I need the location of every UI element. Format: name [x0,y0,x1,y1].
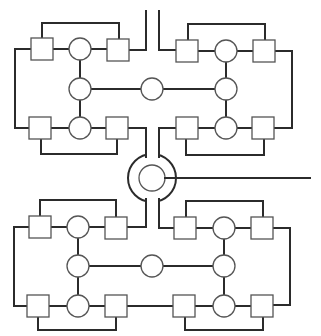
circle-node[interactable] [215,78,237,100]
hub-bottom-gap [147,196,158,204]
circle-node[interactable] [213,295,235,317]
bl-hub-link [127,199,146,227]
top-middle-circle-node[interactable] [141,78,163,100]
square-node[interactable] [251,217,273,239]
tl-left-bus [15,49,31,128]
tr-top-loop [188,24,265,40]
square-node[interactable] [106,117,128,139]
bl-top-loop [40,200,116,217]
tr-right-bus [274,51,292,128]
square-node[interactable] [31,38,53,60]
square-node[interactable] [252,117,274,139]
square-node[interactable] [29,117,51,139]
circle-node[interactable] [67,216,89,238]
square-node[interactable] [105,217,127,239]
circle-node[interactable] [67,255,89,277]
tl-to-hub [128,128,146,157]
square-node[interactable] [29,216,51,238]
central-hub[interactable] [128,152,176,204]
tl-top-loop [42,23,119,39]
bottom-middle-circle-node[interactable] [141,255,163,277]
tl-bottom-loop [41,139,117,154]
tr-bottom-loop [186,139,264,155]
br-hub-link [159,199,174,228]
network-diagram [0,0,321,336]
square-node[interactable] [27,295,49,317]
circle-node[interactable] [69,78,91,100]
br-right-bus [273,228,290,305]
circle-node[interactable] [215,117,237,139]
square-node[interactable] [107,39,129,61]
circle-node[interactable] [215,40,237,62]
square-node[interactable] [251,295,273,317]
square-node[interactable] [176,117,198,139]
square-node[interactable] [174,217,196,239]
circle-node[interactable] [67,295,89,317]
br-bottom-loop [185,317,263,330]
circle-node[interactable] [213,255,235,277]
bl-bottom-loop [38,317,116,330]
square-node[interactable] [253,40,275,62]
br-top-loop [186,201,263,217]
circle-node[interactable] [69,117,91,139]
bl-left-bus [14,227,29,306]
square-node[interactable] [176,40,198,62]
circle-node[interactable] [213,217,235,239]
square-node[interactable] [105,295,127,317]
square-node[interactable] [173,295,195,317]
hub-inner-circle[interactable] [139,165,165,191]
top-channel-right-wire [159,11,176,50]
top-channel-left-wire [129,11,146,50]
hub-top-gap [147,152,158,160]
circle-node[interactable] [69,38,91,60]
tr-to-hub [159,128,176,157]
